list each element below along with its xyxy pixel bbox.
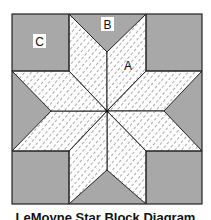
label-a: A [124,59,132,73]
label-b: B [101,17,114,32]
lemoyne-star-diagram: C B A [0,0,211,211]
svg-text:B: B [103,18,111,32]
star-center [105,109,108,112]
label-c: C [33,34,46,49]
diagram-caption: LeMoyne Star Block Diagram [0,211,211,220]
svg-text:A: A [124,59,132,73]
svg-text:C: C [35,35,44,49]
